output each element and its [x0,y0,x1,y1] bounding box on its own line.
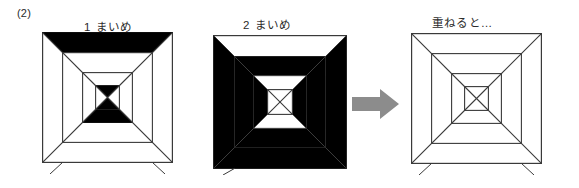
right-arrow-icon [352,88,400,120]
figure-sheet-2 [213,30,347,175]
arrow-container [352,88,400,120]
worksheet-figure-page: (2) 1 まいめ 2 まいめ 重ねると… [0,0,579,188]
caption-result: 重ねると… [432,14,494,30]
figure-result [411,33,542,175]
question-number: (2) [17,7,31,19]
region-outer-bottom-black [214,147,347,168]
region-outer-right-black [325,36,346,169]
nested-square-svg-sheet-1 [42,32,173,174]
region-outer-left-black [214,36,235,169]
nested-square-svg-sheet-2 [213,30,347,175]
nested-square-svg-result [411,33,542,175]
figure-sheet-1 [42,32,173,174]
region-outer-top-black [43,33,173,53]
